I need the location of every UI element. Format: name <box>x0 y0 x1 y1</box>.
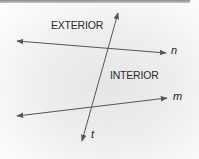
line-t-label: t <box>91 128 94 140</box>
line-m-label: m <box>173 90 182 102</box>
interior-label: INTERIOR <box>110 69 159 81</box>
line-n-label: n <box>171 44 177 56</box>
diagram-canvas: EXTERIOR INTERIOR n m t <box>0 0 199 159</box>
line-n <box>17 41 166 53</box>
exterior-label: EXTERIOR <box>51 19 103 31</box>
